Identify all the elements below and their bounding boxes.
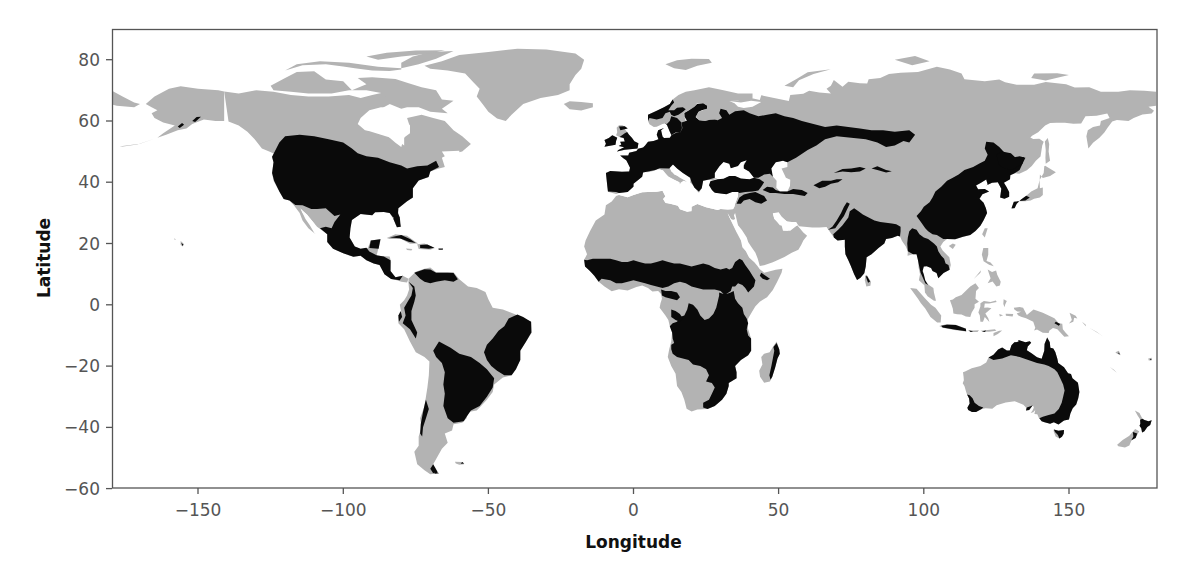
- y-tick-label: 80: [78, 50, 100, 70]
- y-tick-label: −20: [64, 356, 100, 376]
- y-tick-label: 20: [78, 234, 100, 254]
- y-tick-label: −60: [64, 479, 100, 499]
- x-tick-label: 100: [908, 500, 940, 520]
- x-tick-label: 50: [768, 500, 790, 520]
- x-tick-label: −100: [320, 500, 367, 520]
- world-map-figure: 80 60 40 20 0 −20 −40 −60 −150 −100 −50 …: [0, 0, 1185, 579]
- x-axis: [198, 488, 1069, 494]
- x-axis-title: Longitude: [585, 532, 682, 552]
- y-tick-label: −40: [64, 417, 100, 437]
- x-tick-label: 0: [628, 500, 639, 520]
- x-tick-label: −50: [470, 500, 506, 520]
- y-axis-title: Latitude: [34, 218, 54, 298]
- x-tick-labels: −150 −100 −50 0 50 100 150: [175, 500, 1086, 520]
- x-tick-label: −150: [175, 500, 222, 520]
- y-axis: [106, 60, 112, 489]
- y-tick-label: 60: [78, 111, 100, 131]
- y-tick-label: 40: [78, 172, 100, 192]
- x-tick-label: 150: [1053, 500, 1085, 520]
- y-tick-labels: 80 60 40 20 0 −20 −40 −60: [64, 50, 100, 499]
- y-tick-label: 0: [89, 295, 100, 315]
